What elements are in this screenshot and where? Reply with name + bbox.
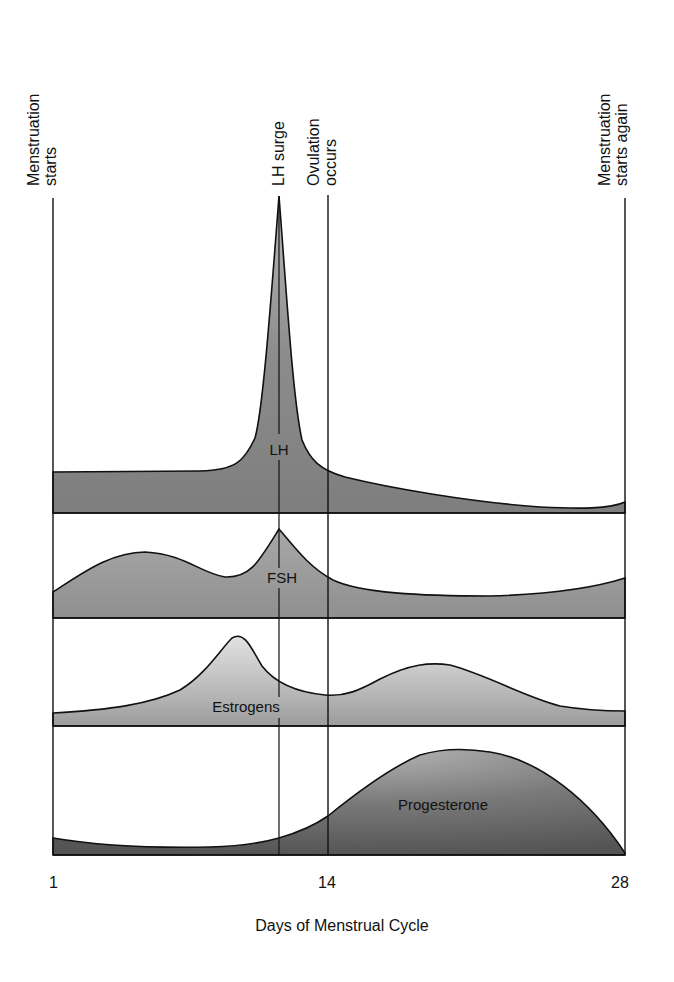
lh-area [53, 196, 625, 513]
estrogens-area [53, 636, 625, 726]
menstrual-cycle-hormone-diagram: LH FSH Estrogens Progesterone Menstruati… [0, 0, 674, 982]
menstruation-starts-label: Menstruation starts [25, 94, 59, 187]
x-tick-1: 1 [49, 874, 58, 892]
estrogens-label: Estrogens [212, 698, 280, 715]
menstruation-starts-again-label: Menstruation starts again [596, 94, 630, 187]
progesterone-label: Progesterone [398, 796, 488, 813]
lh-label: LH [269, 441, 288, 458]
fsh-label: FSH [267, 569, 297, 586]
ovulation-occurs-label: Ovulation occurs [305, 118, 339, 186]
progesterone-area [53, 750, 625, 855]
x-axis-title: Days of Menstrual Cycle [0, 917, 674, 935]
x-tick-28: 28 [611, 874, 629, 892]
x-tick-14: 14 [318, 874, 336, 892]
fsh-area [53, 529, 625, 618]
lh-surge-label: LH surge [270, 121, 287, 186]
